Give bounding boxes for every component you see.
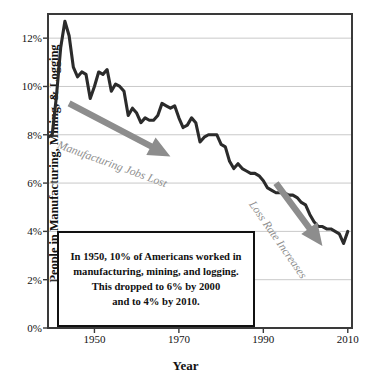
callout-line-1: In 1950, 10% of Americans worked in — [71, 249, 242, 264]
callout-line-4: and to 4% by 2010. — [112, 294, 199, 309]
chart-container: People in Manufacturing, Mining, & Loggi… — [0, 0, 371, 382]
data-series-line — [48, 21, 348, 243]
callout-box: In 1950, 10% of Americans worked in manu… — [57, 231, 255, 327]
callout-line-2: manufacturing, mining, and logging. — [73, 264, 238, 279]
callout-line-3: This dropped to 6% by 2000 — [92, 279, 220, 294]
